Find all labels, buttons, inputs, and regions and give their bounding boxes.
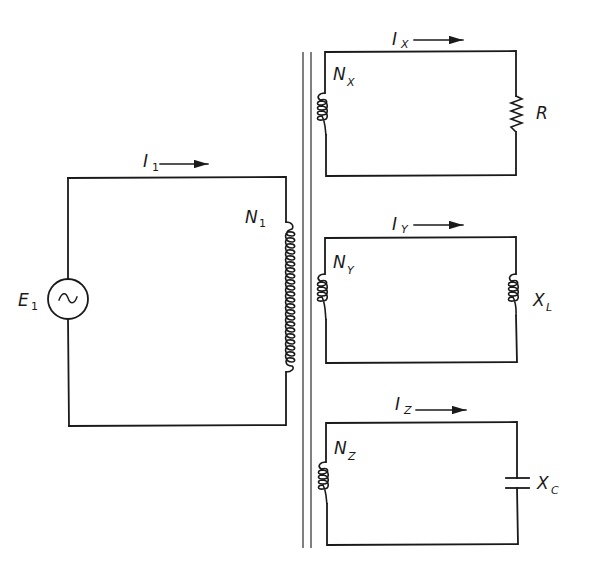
secondary-y-winding-label: N Y [333,252,355,277]
primary-winding-icon [286,222,295,372]
secondary-y-winding-icon [318,274,328,320]
resistor-icon [511,96,522,132]
secondary-z-winding-icon [319,462,329,504]
capacitor-icon [506,478,529,488]
svg-text:N: N [333,64,346,84]
ac-source-icon [48,279,88,319]
secondary-z-winding-label: N Z [334,438,356,463]
svg-text:I: I [143,151,148,171]
svg-text:Z: Z [347,450,356,463]
secondary-y-wires [325,237,517,363]
secondary-x-winding-label: N X [333,64,355,89]
svg-text:X: X [346,76,355,89]
svg-text:E: E [18,290,29,310]
source-label: E 1 [18,290,38,313]
svg-text:N: N [333,252,346,272]
capacitor-label: X C [536,473,559,497]
transformer-core-icon [303,52,311,548]
svg-text:N: N [245,207,258,227]
primary-winding-label: N 1 [245,207,266,230]
inductor-load-icon [509,274,519,316]
svg-text:1: 1 [31,300,38,313]
secondary-circuit-x: I X N X R [318,29,548,176]
svg-text:Y: Y [401,223,409,236]
secondary-y-current-label: I Y [392,214,463,236]
primary-current-label: I 1 [143,151,208,174]
secondary-x-current-label: I X [392,29,463,51]
primary-circuit: I 1 N 1 E 1 [18,151,295,426]
secondary-x-wires [325,51,516,176]
svg-text:X: X [532,290,545,310]
secondary-z-wires [326,422,518,545]
secondary-circuit-y: I Y N Y X L [318,214,553,363]
svg-text:I: I [395,394,400,414]
svg-text:Y: Y [347,264,355,277]
svg-text:1: 1 [259,217,266,230]
svg-text:I: I [392,29,397,49]
svg-text:N: N [334,438,347,458]
svg-text:X: X [400,38,409,51]
svg-text:Z: Z [403,404,412,417]
secondary-z-current-label: I Z [395,394,466,417]
inductor-load-label: X L [532,290,552,314]
secondary-x-winding-icon [318,93,328,135]
primary-left-wire-lower [68,319,69,426]
svg-text:1: 1 [152,161,159,174]
svg-text:C: C [551,484,559,497]
secondary-circuit-z: I Z N Z X C [319,394,560,545]
resistor-label: R [536,103,548,123]
svg-text:R: R [536,103,548,123]
transformer-diagram: I 1 N 1 E 1 I X N X R [0,0,590,577]
svg-text:X: X [536,473,549,493]
primary-bottom-wire [69,372,286,426]
svg-text:L: L [546,301,552,314]
svg-text:I: I [392,214,397,234]
